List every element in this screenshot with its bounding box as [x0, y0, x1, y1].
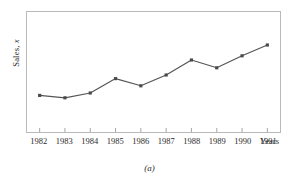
x-axis-tick-label: 1985 — [107, 136, 124, 147]
chart-figure: Sales, x 1982198319841985198619871988198… — [0, 0, 299, 186]
data-point — [38, 94, 41, 97]
x-axis-tick-label: 1988 — [183, 136, 200, 147]
line-chart-svg — [27, 12, 280, 132]
x-axis-tick-label: 1982 — [30, 136, 47, 147]
x-axis-tick-label: 1986 — [132, 136, 149, 147]
data-point — [114, 77, 117, 80]
x-axis-tick-labels: 1982198319841985198619871988198919901991 — [26, 136, 281, 148]
x-axis-tick-label: 1984 — [81, 136, 98, 147]
figure-caption: (a) — [0, 163, 299, 173]
data-point — [63, 96, 66, 99]
x-axis-tick-marks — [40, 128, 268, 132]
plot-area — [26, 11, 281, 133]
x-axis-tick-label: 1983 — [56, 136, 73, 147]
x-axis-title: Years — [260, 136, 279, 147]
y-axis-label: Sales, x — [11, 23, 21, 83]
data-point — [190, 58, 193, 61]
x-axis-tick-label: 1990 — [234, 136, 251, 147]
series-line-sales — [40, 45, 268, 98]
y-axis-label-text: Sales, — [11, 43, 21, 67]
data-point — [215, 66, 218, 69]
x-axis-tick-label: 1987 — [158, 136, 175, 147]
x-axis-tick-label: 1989 — [209, 136, 226, 147]
data-point — [139, 84, 142, 87]
data-point — [89, 91, 92, 94]
data-point — [266, 43, 269, 46]
y-axis-label-symbol: x — [11, 39, 21, 43]
data-point — [165, 73, 168, 76]
series-markers-sales — [38, 43, 269, 99]
data-point — [240, 54, 243, 57]
